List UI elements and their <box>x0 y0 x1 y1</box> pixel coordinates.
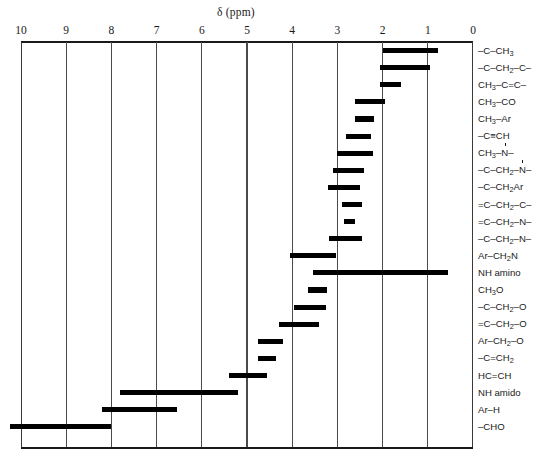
shift-bar-nh-amido <box>120 390 238 395</box>
x-tick-label-7: 7 <box>144 24 170 37</box>
row-label-hc-dbl-ch: HC=CH <box>478 370 544 381</box>
x-tick-label-3: 3 <box>324 24 350 37</box>
shift-bar-ch3-co <box>355 99 385 104</box>
shift-bar-c-ch2-o <box>294 305 326 310</box>
x-axis-tick-labels: 109876543210 <box>0 24 544 40</box>
shift-bar-c-ch2-n2 <box>329 236 362 241</box>
axis-title: δ (ppm) <box>0 6 472 18</box>
row-label-dblc-ch2-c: =C–CH2–C– <box>478 199 544 213</box>
row-label-dblc-ch2-o: =C–CH2–O <box>478 318 544 332</box>
row-label-ch3-c-dbl-c: CH3–C=C– <box>478 79 544 93</box>
gridline-1 <box>427 42 428 448</box>
axis-bottom-rule <box>21 447 473 449</box>
row-label-c-ch2-n: –C–CH2–N– <box>478 164 544 178</box>
row-label-ar-ch2n: Ar–CH2N <box>478 250 544 264</box>
row-label-ar-ch2-o: Ar–CH2–O <box>478 335 544 349</box>
x-tick-label-1: 1 <box>415 24 441 37</box>
row-label-ch3-co: CH3–CO <box>478 96 544 110</box>
gridline-4 <box>292 42 293 448</box>
shift-bar-c-triple-ch <box>346 134 371 139</box>
gridline-7 <box>156 42 157 448</box>
shift-bar-dblc-ch2-n <box>344 219 355 224</box>
gridline-9 <box>66 42 67 448</box>
shift-bar-ch3o <box>308 287 327 292</box>
row-label-nh-amino: NH amino <box>478 267 544 278</box>
gridline-3 <box>337 42 338 448</box>
plot-area <box>21 42 473 448</box>
shift-bar-ar-h <box>102 407 177 412</box>
gridline-5 <box>246 42 247 448</box>
shift-bar-dblc-ch2-o <box>279 322 320 327</box>
row-label-column: –C–CH3–C–CH2–C–CH3–C=C–CH3–COCH3–Ar–C≡CH… <box>478 42 544 448</box>
shift-bar-ar-ch2-o <box>258 339 283 344</box>
row-label-c-ch3: –C–CH3 <box>478 45 544 59</box>
shift-bar-c-ch3 <box>383 48 439 53</box>
gridline-6 <box>201 42 202 448</box>
plot-left-edge <box>21 42 22 448</box>
x-tick-label-10: 10 <box>8 24 34 37</box>
gridline-8 <box>111 42 112 448</box>
shift-bar-ch3-n <box>337 151 372 156</box>
row-label-c-ch2-o: –C–CH2–O <box>478 301 544 315</box>
row-label-dblc-ch2-n: =C–CH2–N– <box>478 216 544 230</box>
row-label-c-ch2-n2: –C–CH2–N– <box>478 233 544 247</box>
x-tick-label-8: 8 <box>98 24 124 37</box>
shift-bar-dblc-ch2-c <box>342 202 362 207</box>
row-label-ch3o: CH3O <box>478 284 544 298</box>
row-label-c-ch2-ar: –C–CH2Ar <box>478 181 544 195</box>
shift-bar-c-ch2-ar <box>328 185 360 190</box>
x-tick-label-0: 0 <box>460 24 486 37</box>
row-label-ar-h: Ar–H <box>478 404 544 415</box>
row-label-cho: –CHO <box>478 421 544 432</box>
x-tick-label-4: 4 <box>279 24 305 37</box>
row-label-c-triple-ch: –C≡CH <box>478 130 544 141</box>
shift-bar-ar-ch2n <box>290 253 337 258</box>
row-label-ch3-n: CH3–N– <box>478 147 544 161</box>
x-tick-label-6: 6 <box>189 24 215 37</box>
shift-bar-cho <box>10 424 112 429</box>
shift-bar-hc-dbl-ch <box>229 373 267 378</box>
nmr-chemical-shift-chart: δ (ppm) 109876543210 –C–CH3–C–CH2–C–CH3–… <box>0 0 544 464</box>
row-label-c-dbl-ch2: –C=CH2 <box>478 352 544 366</box>
shift-bar-c-dbl-ch2 <box>258 356 276 361</box>
shift-bar-ch3-ar <box>355 116 374 121</box>
row-label-c-ch2-c: –C–CH2–C– <box>478 62 544 76</box>
shift-bar-c-ch2-c <box>380 65 430 70</box>
shift-bar-ch3-c-dbl-c <box>380 82 400 87</box>
x-tick-label-5: 5 <box>234 24 260 37</box>
plot-right-edge <box>472 42 473 448</box>
shift-bar-c-ch2-n <box>333 168 364 173</box>
x-tick-label-9: 9 <box>53 24 79 37</box>
row-label-ch3-ar: CH3–Ar <box>478 113 544 127</box>
shift-bar-nh-amino <box>313 270 449 275</box>
row-label-nh-amido: NH amido <box>478 387 544 398</box>
x-tick-label-2: 2 <box>370 24 396 37</box>
